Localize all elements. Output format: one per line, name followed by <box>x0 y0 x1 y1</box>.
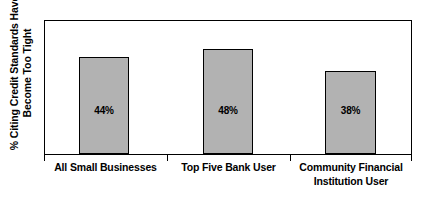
bar-all-small-businesses: 44% <box>79 57 129 154</box>
x-axis-label-3-line-1: Community Financial <box>290 161 412 175</box>
x-axis-label-all-small-businesses: All Small Businesses <box>44 161 167 175</box>
y-axis-title: % Citing Credit Standards Have Become To… <box>0 3 42 143</box>
x-axis-label-2-line-1: Top Five Bank User <box>167 161 290 175</box>
bar-chart: % Citing Credit Standards Have Become To… <box>0 0 426 201</box>
x-axis-label-1-line-1: All Small Businesses <box>44 161 167 175</box>
x-axis-label-top-five-bank-user: Top Five Bank User <box>167 161 290 175</box>
bar-community-financial-institution-user: 38% <box>325 71 376 154</box>
x-axis-labels: All Small Businesses Top Five Bank User … <box>44 161 412 199</box>
plot-frame: 44% 48% 38% <box>44 20 412 155</box>
bar-value-label-3: 38% <box>326 105 375 116</box>
plot-area: 44% 48% 38% <box>45 21 411 154</box>
bar-value-label-2: 48% <box>204 105 252 116</box>
bar-value-label-1: 44% <box>80 105 128 116</box>
y-axis-title-line-1: % Citing Credit Standards Have <box>8 0 22 150</box>
x-axis-label-community-financial-institution-user: Community Financial Institution User <box>290 161 412 188</box>
bar-top-five-bank-user: 48% <box>203 49 253 154</box>
y-axis-title-line-2: Become Too Tight <box>21 29 35 118</box>
x-axis-label-3-line-2: Institution User <box>290 175 412 189</box>
